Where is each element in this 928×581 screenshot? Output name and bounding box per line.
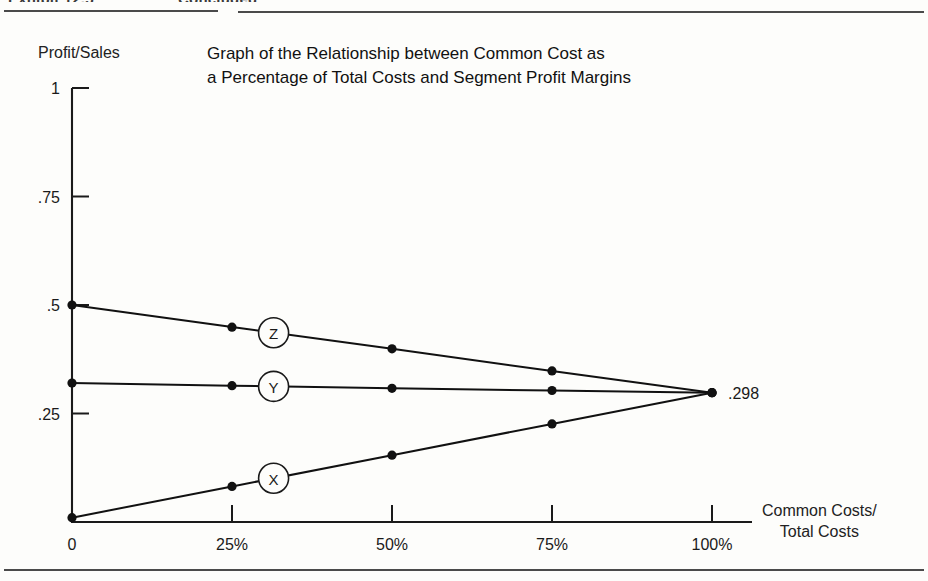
series-lines	[72, 305, 712, 518]
series-label-X: X	[259, 463, 289, 493]
y-axis-ticks	[72, 88, 89, 414]
x-axis-tick-labels: 025%50%75%100%	[68, 536, 733, 553]
data-point-Z-25%	[227, 323, 236, 332]
y-tick-label-1: .75	[38, 189, 60, 206]
exhibit-page: Exhibit 12.5 Concluded Profit/Sales Grap…	[0, 0, 928, 581]
series-letter-bubbles: ZYX	[259, 318, 289, 494]
x-tick-label-4: 100%	[692, 536, 733, 553]
series-label-Z: Z	[259, 318, 289, 348]
y-axis-tick-labels: 1.75.5.25	[38, 80, 60, 423]
x-tick-label-1: 25%	[216, 536, 248, 553]
series-label-Y: Y	[259, 371, 289, 401]
convergence-value-label: .298	[728, 385, 759, 402]
series-label-text-Y: Y	[269, 379, 279, 396]
x-tick-label-0: 0	[68, 536, 77, 553]
y-tick-label-3: .25	[38, 406, 60, 423]
axis-lines	[72, 88, 752, 522]
data-point-Y-50%	[387, 384, 396, 393]
data-point-Y-75%	[547, 386, 556, 395]
series-label-text-X: X	[269, 471, 279, 488]
data-point-X-0	[67, 513, 76, 522]
chart-axes	[72, 88, 752, 522]
data-point-X-50%	[387, 451, 396, 460]
data-point-Y-0	[67, 379, 76, 388]
data-point-Y-25%	[227, 381, 236, 390]
data-point-X-75%	[547, 419, 556, 428]
convergence-point-label: .298	[728, 385, 759, 402]
data-point-Z-0	[67, 300, 76, 309]
data-point-X-100%	[707, 388, 716, 397]
x-tick-label-3: 75%	[536, 536, 568, 553]
data-point-Z-50%	[387, 344, 396, 353]
y-tick-label-0: 1	[51, 80, 60, 97]
data-point-X-25%	[227, 482, 236, 491]
x-axis-ticks	[232, 505, 712, 522]
line-chart-plot: 1.75.5.25 025%50%75%100% ZYX .298	[0, 0, 928, 581]
y-tick-label-2: .5	[47, 297, 60, 314]
x-tick-label-2: 50%	[376, 536, 408, 553]
series-label-text-Z: Z	[269, 325, 278, 342]
data-point-Z-75%	[547, 366, 556, 375]
